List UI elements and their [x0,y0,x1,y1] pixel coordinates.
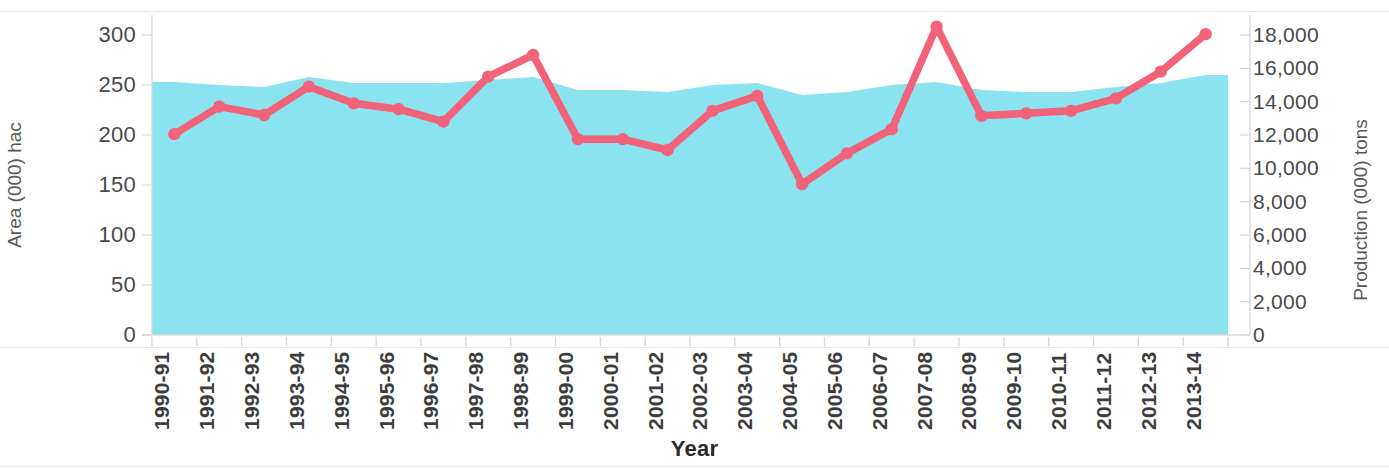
data-point-marker [975,110,987,122]
x-axis-title: Year [0,436,1389,462]
x-axis-tick-1995-96: 1995-96 [390,344,408,430]
data-point-marker [886,123,898,135]
right-axis-tick-8000: 8,000 [1253,190,1339,214]
x-axis-tick-label: 2011-12 [1092,353,1116,430]
x-axis-tick-label: 1992-93 [240,352,264,430]
x-axis-tick-label: 2002-03 [688,352,712,430]
right-axis-tick-14000: 14,000 [1253,90,1339,114]
data-point-marker [1199,28,1211,40]
x-axis-tick-2000-01: 2000-01 [614,344,632,430]
data-point-marker [841,147,853,159]
x-axis-tick-label: 1996-97 [419,352,443,430]
right-axis-tick-12000: 12,000 [1253,123,1339,147]
x-axis-tick-2002-03: 2002-03 [703,344,721,430]
x-axis-tick-2006-07: 2006-07 [883,344,901,430]
right-axis-tick-10000: 10,000 [1253,156,1339,180]
data-point-marker [213,100,225,112]
right-axis-title-text: Production (000) tons [1350,119,1372,301]
x-axis-tick-1992-93: 1992-93 [255,344,273,430]
x-axis-tick-2007-08: 2007-08 [928,344,946,430]
data-point-marker [303,80,315,92]
x-axis-tick-label: 2005-06 [823,352,847,430]
x-axis-tick-label: 1999-00 [554,352,578,430]
right-axis-title: Production (000) tons [1348,85,1374,335]
right-axis-tick-4000: 4,000 [1253,256,1339,280]
right-axis-tick-2000: 2,000 [1253,290,1339,314]
right-axis-tick-labels: 02,0004,0006,0008,00010,00012,00014,0001… [1253,0,1339,469]
data-point-marker [930,20,942,32]
data-point-marker [392,103,404,115]
data-point-marker [348,97,360,109]
data-point-marker [1020,107,1032,119]
x-axis-tick-1993-94: 1993-94 [300,344,318,430]
x-axis-tick-label: 1998-99 [509,352,533,430]
x-axis-tick-label: 2013-14 [1182,352,1206,430]
data-point-marker [168,128,180,140]
x-axis-tick-1999-00: 1999-00 [569,344,587,430]
x-axis-tick-label: 2012-13 [1137,352,1161,430]
data-point-marker [661,144,673,156]
data-point-marker [751,90,763,102]
x-axis-tick-label: 2010-11 [1047,353,1071,430]
x-axis-tick-labels: 1990-911991-921992-931993-941994-951995-… [0,344,1389,434]
data-point-marker [1065,105,1077,117]
data-point-marker [258,109,270,121]
x-axis-tick-2003-04: 2003-04 [748,344,766,430]
data-point-marker [796,178,808,190]
x-axis-tick-2010-11: 2010-11 [1062,344,1080,430]
data-point-marker [1155,65,1167,77]
x-axis-tick-1997-98: 1997-98 [479,344,497,430]
right-axis-tick-16000: 16,000 [1253,56,1339,80]
x-axis-tick-1990-91: 1990-91 [165,344,183,430]
x-axis-tick-label: 1997-98 [464,352,488,430]
x-axis-tick-label: 2006-07 [868,352,892,430]
x-axis-tick-label: 2001-02 [644,352,668,430]
x-axis-tick-label: 1995-96 [375,352,399,430]
x-axis-tick-2011-12: 2011-12 [1107,344,1125,430]
right-axis-tick-6000: 6,000 [1253,223,1339,247]
x-axis-tick-1991-92: 1991-92 [210,344,228,430]
x-axis-tick-label: 1993-94 [285,352,309,430]
data-point-marker [1110,92,1122,104]
x-axis-tick-2005-06: 2005-06 [838,344,856,430]
x-axis-tick-label: 2007-08 [913,352,937,430]
x-axis-tick-label: 2009-10 [1002,352,1026,430]
x-axis-tick-2001-02: 2001-02 [659,344,677,430]
data-point-marker [572,133,584,145]
x-axis-tick-1994-95: 1994-95 [345,344,363,430]
x-axis-tick-2008-09: 2008-09 [972,344,990,430]
right-axis-tick-0: 0 [1253,323,1339,347]
x-axis-tick-label: 1994-95 [330,352,354,430]
x-axis-tick-2013-14: 2013-14 [1197,344,1215,430]
x-axis-tick-2004-05: 2004-05 [793,344,811,430]
data-point-marker [437,115,449,127]
x-axis-tick-label: 2000-01 [599,352,623,430]
x-axis-tick-1996-97: 1996-97 [434,344,452,430]
x-axis-tick-label: 2004-05 [778,352,802,430]
x-axis-tick-label: 1991-92 [195,352,219,430]
x-axis-tick-label: 2008-09 [957,352,981,430]
x-axis-tick-2012-13: 2012-13 [1152,344,1170,430]
x-axis-tick-label: 1990-91 [150,352,174,430]
x-axis-tick-2009-10: 2009-10 [1017,344,1035,430]
right-axis-tick-18000: 18,000 [1253,23,1339,47]
x-axis-tick-label: 2003-04 [733,352,757,430]
data-point-marker [482,70,494,82]
data-point-marker [527,49,539,61]
data-point-marker [617,133,629,145]
chart-container: Area (000) hac 050100150200250300 1990-9… [0,0,1389,469]
data-point-marker [706,105,718,117]
x-axis-tick-1998-99: 1998-99 [524,344,542,430]
